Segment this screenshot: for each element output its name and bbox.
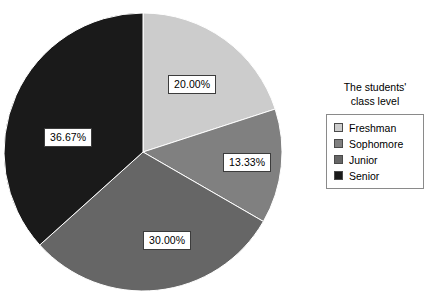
- legend-item-freshman[interactable]: Freshman: [334, 120, 417, 135]
- slice-label-freshman: 20.00%: [168, 75, 216, 94]
- legend-box: FreshmanSophomoreJuniorSenior: [326, 114, 424, 189]
- legend-swatch-senior-icon: [334, 171, 343, 180]
- legend-item-junior[interactable]: Junior: [334, 152, 417, 167]
- legend-title: The students' class level: [326, 80, 424, 108]
- legend-swatch-freshman-icon: [334, 123, 343, 132]
- legend-title-line-2: class level: [326, 94, 424, 108]
- legend: The students' class level FreshmanSophom…: [326, 80, 424, 189]
- legend-label-senior: Senior: [349, 170, 379, 182]
- slice-label-sophomore: 13.33%: [223, 153, 271, 172]
- legend-item-senior[interactable]: Senior: [334, 168, 417, 183]
- legend-title-line-1: The students': [326, 80, 424, 94]
- legend-item-sophomore[interactable]: Sophomore: [334, 136, 417, 151]
- legend-label-sophomore: Sophomore: [349, 138, 403, 150]
- legend-label-junior: Junior: [349, 154, 378, 166]
- slice-label-senior: 36.67%: [44, 128, 92, 147]
- legend-swatch-sophomore-icon: [334, 139, 343, 148]
- slice-label-junior: 30.00%: [143, 231, 191, 250]
- legend-swatch-junior-icon: [334, 155, 343, 164]
- legend-label-freshman: Freshman: [349, 122, 396, 134]
- pie-chart-figure: 20.00% 13.33% 30.00% 36.67% The students…: [0, 0, 429, 306]
